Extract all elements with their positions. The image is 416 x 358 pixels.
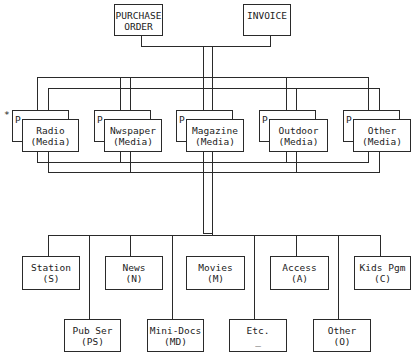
box-label: (N) xyxy=(106,273,162,284)
purchase-order-box: PURCHASE ORDER xyxy=(114,4,163,36)
access-box: Access (A) xyxy=(270,256,329,290)
media-hierarchy-diagram: PURCHASE ORDER INVOICE * P Radio (Media)… xyxy=(0,0,416,358)
box-label: Movies xyxy=(187,262,244,273)
box-label: Nwspaper xyxy=(105,125,161,136)
invoice-box: INVOICE xyxy=(243,4,291,36)
box-label: Other xyxy=(314,325,370,336)
box-label: Other xyxy=(354,125,410,136)
connector xyxy=(141,46,271,47)
footnote-marker: * xyxy=(4,109,10,120)
etc-box: Etc. _ xyxy=(229,319,287,352)
box-label: (PS) xyxy=(65,336,120,347)
box-label: (MD) xyxy=(148,336,203,347)
connector xyxy=(37,77,38,110)
newspaper-media-box: Nwspaper (Media) xyxy=(104,119,162,152)
p-label: P xyxy=(179,114,185,125)
connector xyxy=(286,77,287,110)
connector xyxy=(379,151,380,172)
box-label: INVOICE xyxy=(244,10,290,21)
other-media-box: Other (Media) xyxy=(353,119,411,152)
station-box: Station (S) xyxy=(22,256,80,290)
connector xyxy=(37,77,369,78)
box-label: (C) xyxy=(355,273,410,284)
connector xyxy=(254,235,255,319)
connector xyxy=(89,235,90,319)
p-label: P xyxy=(15,114,21,125)
box-label: _ xyxy=(230,336,286,347)
connector xyxy=(296,151,297,172)
box-label: (Media) xyxy=(105,136,161,147)
connector xyxy=(368,77,369,110)
connector xyxy=(296,235,297,256)
connector xyxy=(120,77,121,110)
box-label: Radio xyxy=(23,125,78,136)
connector xyxy=(130,151,131,172)
radio-media-box: Radio (Media) xyxy=(22,119,79,152)
p-label: P xyxy=(97,114,103,125)
box-label: Mini-Docs xyxy=(148,325,203,336)
other-category-box: Other (O) xyxy=(313,319,371,352)
box-label: (O) xyxy=(314,336,370,347)
box-label: (Media) xyxy=(187,136,243,147)
box-label: ORDER xyxy=(115,21,162,32)
connector xyxy=(338,235,339,319)
p-label: P xyxy=(262,114,268,125)
box-label: Magazine xyxy=(187,125,243,136)
mini-docs-box: Mini-Docs (MD) xyxy=(147,319,204,352)
connector xyxy=(130,235,131,256)
connector xyxy=(203,233,213,234)
box-label: News xyxy=(106,262,162,273)
box-label: Pub Ser xyxy=(65,325,120,336)
box-label: Kids Pgm xyxy=(355,262,410,273)
connector xyxy=(48,172,380,173)
connector xyxy=(37,162,369,163)
box-label: (Media) xyxy=(23,136,78,147)
box-label: (A) xyxy=(271,273,328,284)
kids-pgm-box: Kids Pgm (C) xyxy=(354,256,411,290)
box-label: Station xyxy=(23,262,79,273)
outdoor-media-box: Outdoor (Media) xyxy=(269,119,328,152)
box-label: PURCHASE xyxy=(115,10,162,21)
box-label: (M) xyxy=(187,273,244,284)
news-box: News (N) xyxy=(105,256,163,290)
connector xyxy=(172,235,173,319)
box-label: (S) xyxy=(23,273,79,284)
pub-ser-box: Pub Ser (PS) xyxy=(64,319,121,352)
connector xyxy=(380,235,381,256)
box-label: Etc. xyxy=(230,325,286,336)
connector xyxy=(48,235,49,256)
connector xyxy=(270,35,271,46)
box-label: (Media) xyxy=(270,136,327,147)
box-label: (Media) xyxy=(354,136,410,147)
box-label: Outdoor xyxy=(270,125,327,136)
p-label: P xyxy=(346,114,352,125)
movies-box: Movies (M) xyxy=(186,256,245,290)
box-label: Access xyxy=(271,262,328,273)
connector xyxy=(48,235,380,236)
magazine-media-box: Magazine (Media) xyxy=(186,119,244,152)
connector xyxy=(48,88,380,89)
connector xyxy=(141,35,142,46)
connector xyxy=(48,151,49,172)
